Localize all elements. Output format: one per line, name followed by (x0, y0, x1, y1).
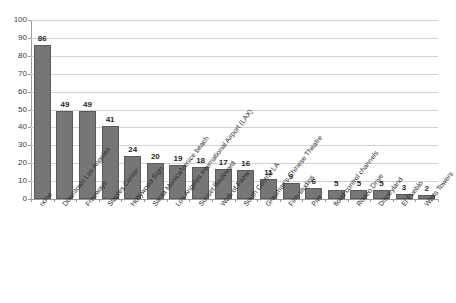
y-tick-label: 40 (3, 123, 27, 131)
y-tick-label: 60 (3, 88, 27, 96)
y-tick-label: 70 (3, 70, 27, 78)
y-tick-mark (28, 110, 31, 111)
y-tick-mark (28, 20, 31, 21)
y-tick-mark (28, 56, 31, 57)
y-tick-mark (28, 127, 31, 128)
y-tick-mark (28, 74, 31, 75)
y-tick-mark (28, 92, 31, 93)
y-tick-label: 30 (3, 141, 27, 149)
y-axis-ticks: 0102030405060708090100 (0, 0, 456, 303)
y-tick-label: 50 (3, 106, 27, 114)
y-tick-mark (28, 38, 31, 39)
y-tick-label: 0 (3, 195, 27, 203)
y-tick-mark (28, 199, 31, 200)
bar-chart: 86494941242019181716119655532 0102030405… (0, 0, 456, 303)
y-tick-label: 100 (3, 16, 27, 24)
y-tick-label: 80 (3, 52, 27, 60)
y-tick-label: 10 (3, 177, 27, 185)
y-tick-mark (28, 181, 31, 182)
y-tick-label: 90 (3, 34, 27, 42)
y-tick-label: 20 (3, 159, 27, 167)
y-tick-mark (28, 163, 31, 164)
y-tick-mark (28, 145, 31, 146)
